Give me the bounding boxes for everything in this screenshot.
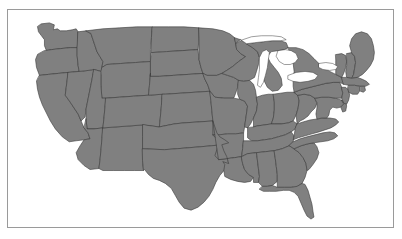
state-AL[interactable]: Alabama — [256, 151, 277, 187]
us-map-figure: Washington Oregon California Nevada Idah… — [0, 0, 402, 239]
state-ND[interactable]: North Dakota — [151, 27, 199, 53]
state-RI[interactable]: Rhode Island — [361, 86, 366, 92]
state-WY[interactable]: Wyoming — [101, 62, 151, 99]
map-frame-border: Washington Oregon California Nevada Idah… — [7, 9, 394, 228]
state-OR[interactable]: Oregon — [36, 48, 80, 76]
state-IN[interactable]: Indiana — [254, 94, 275, 127]
state-CO[interactable]: Colorado — [103, 94, 162, 128]
state-NM[interactable]: New Mexico — [99, 125, 144, 171]
state-SD[interactable]: South Dakota — [150, 50, 203, 77]
us-states-map[interactable]: Washington Oregon California Nevada Idah… — [8, 10, 393, 227]
state-CT[interactable]: Connecticut — [348, 85, 360, 94]
